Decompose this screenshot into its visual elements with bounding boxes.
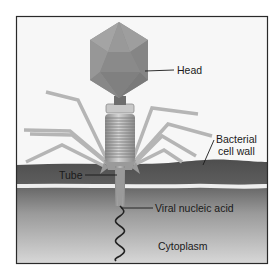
label-cell-wall-line2: cell wall	[218, 145, 255, 157]
bacteriophage-diagram: Head Bacterial cell wall Tube Viral nucl…	[0, 0, 280, 276]
membrane-line	[16, 186, 268, 187]
label-cytoplasm: Cytoplasm	[158, 240, 208, 252]
label-tube: Tube	[59, 169, 83, 181]
label-head: Head	[177, 64, 202, 76]
collar	[106, 104, 134, 113]
label-cell-wall-line1: Bacterial	[216, 133, 257, 145]
label-viral-nucleic-acid: Viral nucleic acid	[155, 202, 234, 214]
cytoplasm-region	[16, 186, 268, 264]
